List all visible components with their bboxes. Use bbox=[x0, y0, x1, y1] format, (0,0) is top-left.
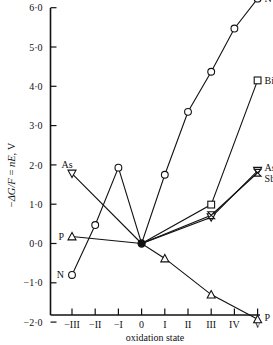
label-as-left: As bbox=[61, 159, 72, 170]
label-sb-right: Sb bbox=[265, 173, 273, 184]
axes-group bbox=[51, 8, 261, 315]
x-tick-label: −I bbox=[114, 319, 123, 330]
marker-bi bbox=[254, 77, 261, 84]
y-tick-label: 1·0 bbox=[29, 199, 42, 210]
series-curves bbox=[72, 0, 258, 319]
marker-n bbox=[92, 222, 99, 229]
y-tick-label: 4·0 bbox=[29, 81, 42, 92]
x-axis-ticks: −III−II−I0IIIIIIIVV bbox=[64, 309, 262, 331]
marker-n bbox=[208, 68, 215, 75]
y-title-delta-g: ΔG bbox=[6, 187, 17, 202]
series-markers bbox=[68, 0, 262, 323]
label-n-left: N bbox=[57, 269, 64, 280]
y-tick-label: −1·0 bbox=[24, 277, 43, 288]
x-tick-label: III bbox=[206, 319, 216, 330]
marker-p bbox=[68, 232, 76, 239]
marker-n bbox=[185, 108, 192, 115]
frost-diagram-svg: 6·05·04·03·02·01·00·0−1·0−2·0 −III−II−I0… bbox=[0, 0, 273, 345]
y-title-comma-v: , V bbox=[6, 142, 17, 155]
marker-n bbox=[254, 0, 261, 2]
x-tick-label: −II bbox=[89, 319, 101, 330]
series-endpoint-labels: AsPNNBiAsSbP bbox=[57, 0, 273, 323]
label-n-right: N bbox=[265, 0, 272, 4]
marker-n bbox=[161, 171, 168, 178]
origin-marker bbox=[138, 240, 145, 247]
y-tick-label: 2·0 bbox=[29, 160, 42, 171]
frost-diagram-figure: 6·05·04·03·02·01·00·0−1·0−2·0 −III−II−I0… bbox=[0, 0, 273, 345]
y-tick-label: 0·0 bbox=[29, 238, 42, 249]
marker-n bbox=[69, 272, 76, 279]
curve-p bbox=[72, 236, 258, 319]
label-p-right: P bbox=[265, 312, 271, 323]
y-tick-label: 3·0 bbox=[29, 120, 42, 131]
marker-n bbox=[231, 25, 238, 32]
y-axis-title: −ΔG/F = nE, V bbox=[6, 142, 17, 207]
y-title-equals: = bbox=[6, 167, 17, 178]
label-p-left: P bbox=[58, 231, 64, 242]
y-axis-title-text: −ΔG/F = nE, V bbox=[6, 142, 17, 207]
y-tick-label: 6·0 bbox=[29, 2, 42, 13]
label-bi-right: Bi bbox=[265, 75, 273, 86]
x-tick-label: II bbox=[185, 319, 192, 330]
curve-as bbox=[72, 171, 258, 244]
marker-bi bbox=[208, 201, 215, 208]
x-tick-label: I bbox=[163, 319, 166, 330]
y-tick-label: 5·0 bbox=[29, 42, 42, 53]
marker-n bbox=[115, 164, 122, 171]
label-as-right: As bbox=[265, 162, 273, 173]
curve-bi bbox=[142, 80, 258, 243]
x-axis-title: oxidation state bbox=[126, 332, 185, 343]
y-title-ne: nE bbox=[6, 155, 17, 167]
curve-sb bbox=[142, 173, 258, 244]
y-axis-ticks: 6·05·04·03·02·01·00·0−1·0−2·0 bbox=[24, 2, 57, 327]
x-tick-label: −III bbox=[64, 319, 80, 330]
x-tick-label: IV bbox=[229, 319, 240, 330]
marker-p bbox=[161, 254, 169, 261]
y-tick-label: −2·0 bbox=[24, 317, 43, 328]
marker-p bbox=[207, 291, 215, 298]
y-title-slash-f: /F bbox=[6, 178, 17, 189]
x-tick-label: 0 bbox=[139, 319, 144, 330]
